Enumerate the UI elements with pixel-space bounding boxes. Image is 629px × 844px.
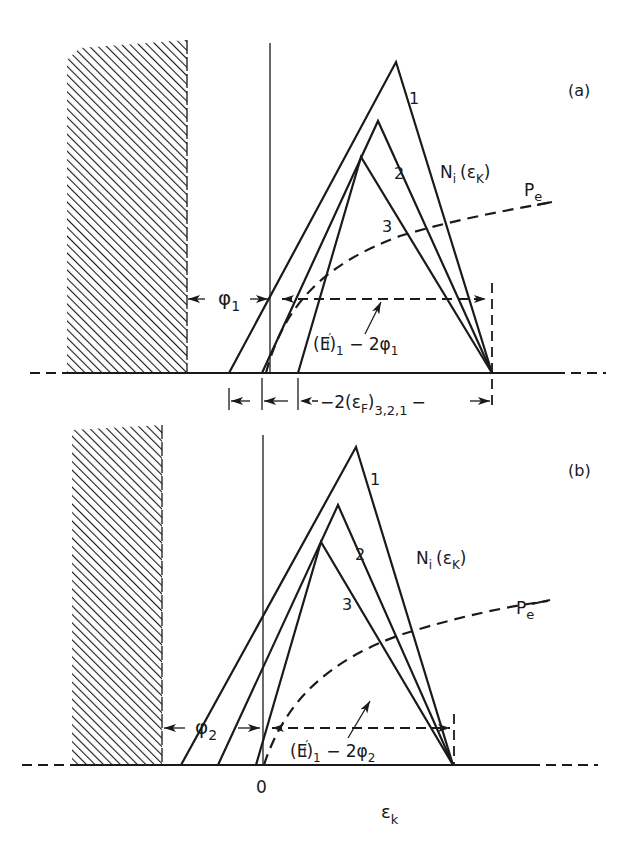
distribution-curve-1 <box>229 62 492 373</box>
curve-2-label: 2 <box>355 545 365 564</box>
pe-label: Pe <box>524 180 542 204</box>
panel-b-label: (b) <box>568 461 591 480</box>
curve-3-label: 3 <box>382 217 392 236</box>
metal-surface-hatch <box>67 40 187 373</box>
phi2-label: φ2 <box>195 715 217 743</box>
metal-surface-hatch <box>72 425 162 765</box>
energy-difference-label: (E′i)1 − 2φ1 <box>313 331 398 358</box>
energy-difference-label: (E′i)1 − 2φ2 <box>290 738 375 765</box>
energy-annotation-arrow <box>365 302 381 334</box>
curve-1-label: 1 <box>409 89 419 108</box>
fermi-energy-label: −2(εF)3,2,1− <box>320 392 426 418</box>
panel-a-label: (a) <box>568 81 590 100</box>
pe-curve <box>266 202 552 373</box>
pe-label: Pe <box>516 598 534 622</box>
panel-a: φ1 (E′i)1 − 2φ1 −2(εF)3,2,1− 1 2 3 Ni(εK… <box>30 40 606 418</box>
curve-1-label: 1 <box>370 470 380 489</box>
energy-distribution-diagram: φ1 (E′i)1 − 2φ1 −2(εF)3,2,1− 1 2 3 Ni(εK… <box>0 0 629 844</box>
curve-3-label: 3 <box>342 595 352 614</box>
distribution-function-label: Ni(εK) <box>416 548 466 572</box>
phi1-label: φ1 <box>218 286 240 314</box>
curve-2-label: 2 <box>394 164 404 183</box>
distribution-function-label: Ni(εK) <box>440 162 490 186</box>
panel-b: φ2 (E′i)1 − 2φ2 1 2 3 Ni(εK) Pe (b) 0 εk <box>22 425 598 827</box>
energy-annotation-arrow <box>348 701 370 738</box>
origin-label: 0 <box>256 777 267 797</box>
energy-axis-label: εk <box>381 801 399 827</box>
distribution-curve-1 <box>181 447 453 765</box>
